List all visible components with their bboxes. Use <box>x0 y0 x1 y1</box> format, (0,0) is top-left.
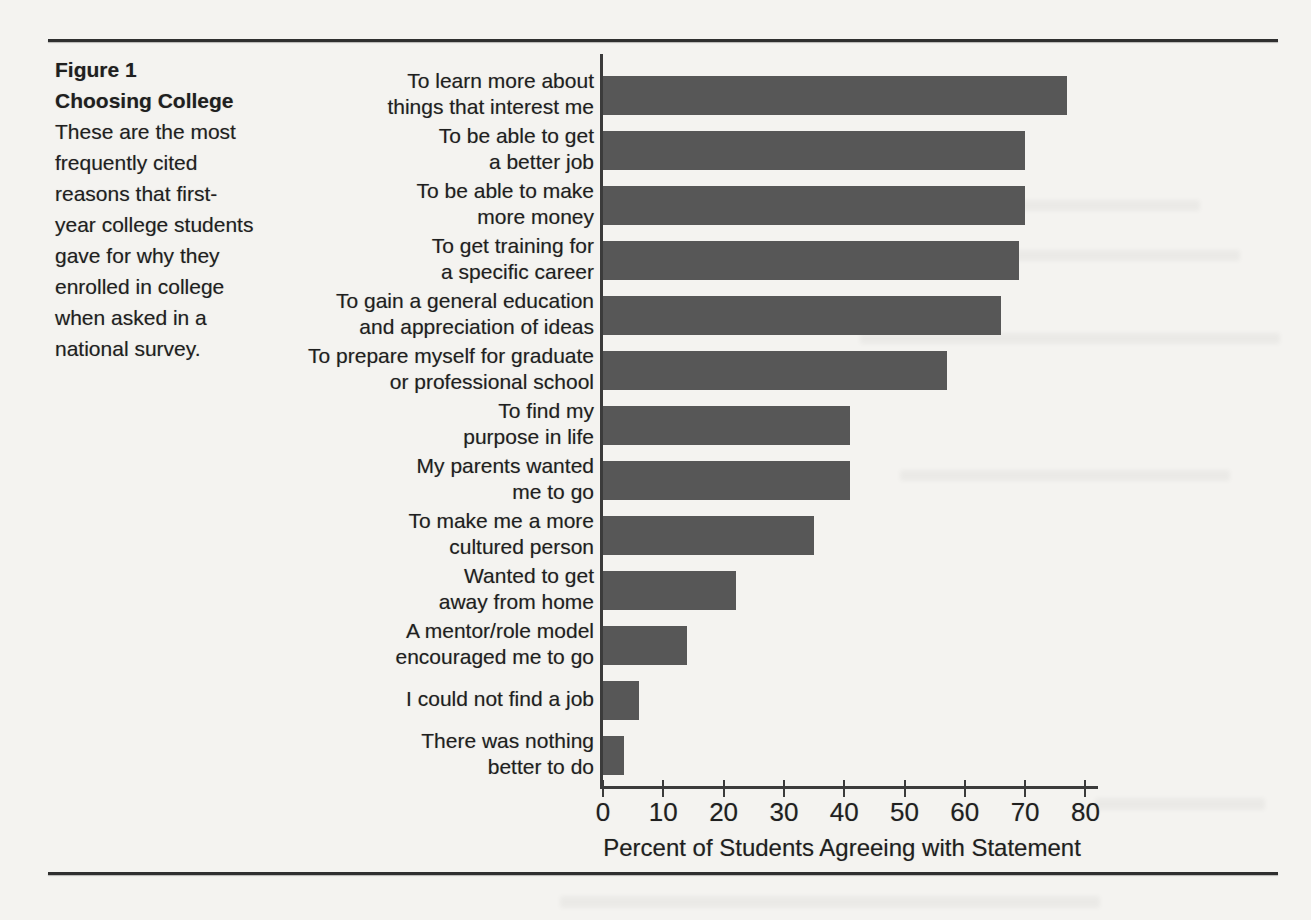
figure-caption-line: frequently cited <box>55 147 325 178</box>
figure-caption-line: These are the most <box>55 116 325 147</box>
bar-label-line: To gain a general education <box>280 288 594 314</box>
bar-label-line: cultured person <box>280 534 594 560</box>
x-axis-tick-label: 80 <box>1055 797 1115 828</box>
bar-label-line: To get training for <box>280 233 594 259</box>
bar-label-line: a better job <box>280 149 594 175</box>
x-axis-tick <box>1084 780 1086 797</box>
bar-label-line: away from home <box>280 589 594 615</box>
bar-label: A mentor/role modelencouraged me to go <box>280 618 594 670</box>
x-axis-tick <box>964 780 966 797</box>
bar-label-line: I could not find a job <box>280 686 594 712</box>
bar-label: To learn more aboutthings that interest … <box>280 68 594 120</box>
x-axis-tick <box>843 780 845 797</box>
figure-label: Figure 1 <box>55 54 325 85</box>
x-axis-tick <box>723 780 725 797</box>
bar <box>603 241 1019 280</box>
x-axis-tick-label: 30 <box>754 797 814 828</box>
figure-caption-line: gave for why they <box>55 240 325 271</box>
bar <box>603 131 1025 170</box>
bar-label: I could not find a job <box>280 686 594 712</box>
bar-label: To be able to makemore money <box>280 178 594 230</box>
bar-label-line: Wanted to get <box>280 563 594 589</box>
bar-label-line: To be able to get <box>280 123 594 149</box>
bar-label-line: To prepare myself for graduate <box>280 343 594 369</box>
bar-label: Wanted to getaway from home <box>280 563 594 615</box>
bar-label-line: To learn more about <box>280 68 594 94</box>
bar <box>603 186 1025 225</box>
bar-label-line: better to do <box>280 754 594 780</box>
bar-label-line: a specific career <box>280 259 594 285</box>
bar <box>603 736 624 775</box>
x-axis-tick-label: 0 <box>573 797 633 828</box>
x-axis-tick-label: 70 <box>995 797 1055 828</box>
bar-label: To gain a general educationand appreciat… <box>280 288 594 340</box>
x-axis-tick-label: 50 <box>875 797 935 828</box>
bar <box>603 461 850 500</box>
x-axis-tick-label: 40 <box>814 797 874 828</box>
bar <box>603 76 1067 115</box>
bar <box>603 406 850 445</box>
bar-label-line: To be able to make <box>280 178 594 204</box>
x-axis-title: Percent of Students Agreeing with Statem… <box>600 834 1084 862</box>
bar-label: There was nothingbetter to do <box>280 728 594 780</box>
bar <box>603 571 736 610</box>
textbook-page-scan: Figure 1 Choosing College These are the … <box>0 0 1311 920</box>
bar <box>603 296 1001 335</box>
bar-label-line: There was nothing <box>280 728 594 754</box>
bar-label: To prepare myself for graduateor profess… <box>280 343 594 395</box>
figure-description: These are the mostfrequently citedreason… <box>55 116 325 364</box>
bar-label-line: things that interest me <box>280 94 594 120</box>
bar-label-line: or professional school <box>280 369 594 395</box>
bar-label-line: To find my <box>280 398 594 424</box>
bar-label: My parents wantedme to go <box>280 453 594 505</box>
figure-caption-line: reasons that first- <box>55 178 325 209</box>
x-axis-tick-label: 60 <box>935 797 995 828</box>
bar-label: To make me a morecultured person <box>280 508 594 560</box>
bar <box>603 351 947 390</box>
x-axis-tick <box>662 780 664 797</box>
bar <box>603 626 687 665</box>
figure-caption: Figure 1 Choosing College These are the … <box>55 54 325 364</box>
x-axis-tick <box>904 780 906 797</box>
bar-label-line: encouraged me to go <box>280 644 594 670</box>
x-axis-tick-label: 10 <box>633 797 693 828</box>
bar-label-line: To make me a more <box>280 508 594 534</box>
figure-caption-line: national survey. <box>55 333 325 364</box>
x-axis-tick <box>602 780 604 797</box>
bar <box>603 681 639 720</box>
figure-caption-line: year college students <box>55 209 325 240</box>
bar-label: To get training fora specific career <box>280 233 594 285</box>
x-axis-tick-label: 20 <box>694 797 754 828</box>
figure-caption-line: when asked in a <box>55 302 325 333</box>
figure-caption-line: enrolled in college <box>55 271 325 302</box>
bar-label-line: A mentor/role model <box>280 618 594 644</box>
x-axis-tick <box>783 780 785 797</box>
bar <box>603 516 814 555</box>
bar-label-line: My parents wanted <box>280 453 594 479</box>
bar-label-line: more money <box>280 204 594 230</box>
bar-label: To find mypurpose in life <box>280 398 594 450</box>
bar-label-line: purpose in life <box>280 424 594 450</box>
bar-label-line: me to go <box>280 479 594 505</box>
bar-label-line: and appreciation of ideas <box>280 314 594 340</box>
bar-label: To be able to geta better job <box>280 123 594 175</box>
x-axis-tick <box>1024 780 1026 797</box>
figure-title: Choosing College <box>55 85 325 116</box>
